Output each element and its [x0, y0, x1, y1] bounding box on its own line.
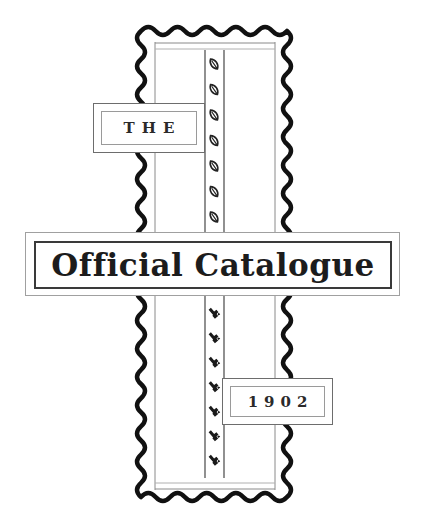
leaf-icon [208, 83, 220, 96]
leaf-icon [208, 185, 220, 198]
year-label: 1902 [242, 393, 314, 411]
leaf-icon [208, 159, 220, 172]
leaf-icon [208, 57, 220, 70]
hand-pointer-icon [208, 379, 221, 393]
hand-pointer-icon [208, 428, 221, 442]
catalogue-title: Official Catalogue [51, 247, 374, 283]
title-inner: Official Catalogue [34, 241, 392, 289]
hand-pointer-icon [208, 305, 221, 319]
title-box: Official Catalogue [25, 232, 400, 296]
lower-ornaments [208, 305, 221, 466]
the-label-box: THE [93, 103, 205, 153]
leaf-icon [208, 210, 220, 223]
hand-pointer-icon [208, 330, 221, 344]
hand-pointer-icon [208, 354, 221, 368]
year-box: 1902 [222, 378, 333, 425]
catalogue-cover: THE Official Catalogue 1902 [0, 0, 423, 518]
leaf-icon [208, 108, 220, 121]
upper-ornaments [208, 57, 220, 223]
the-label-inner: THE [101, 111, 197, 145]
hand-pointer-icon [208, 452, 221, 466]
the-label: THE [117, 119, 182, 137]
year-inner: 1902 [230, 386, 325, 417]
leaf-icon [208, 134, 220, 147]
hand-pointer-icon [208, 403, 221, 417]
